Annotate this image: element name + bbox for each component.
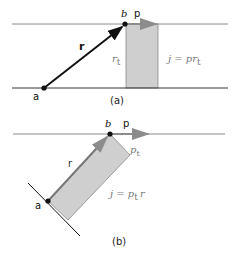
diagram-canvas: a b p r rt j = prt (a) a b p r pt j = pt… xyxy=(0,0,238,258)
label-rt: rt xyxy=(112,53,121,67)
caption-a: (a) xyxy=(110,95,124,106)
label-point-b: b xyxy=(121,8,127,19)
label-vector-p: p xyxy=(134,8,140,19)
caption-b: (b) xyxy=(112,236,126,247)
label-vector-r-b: r xyxy=(68,158,73,169)
panel-a: a b p r rt j = prt (a) xyxy=(12,8,228,106)
point-a-dot-b xyxy=(45,198,50,203)
equation-a: j = prt xyxy=(166,53,201,67)
point-a-dot xyxy=(41,85,46,90)
label-point-a-b: a xyxy=(35,200,41,211)
point-b-dot xyxy=(122,21,127,26)
vector-r-arrow-a xyxy=(44,27,122,88)
point-b-dot-b xyxy=(107,131,112,136)
label-vector-p-b: p xyxy=(123,118,129,129)
panel-b: a b p r pt j = ptr (b) xyxy=(13,118,225,247)
label-vector-r: r xyxy=(79,40,85,53)
label-point-b-b: b xyxy=(105,118,111,129)
label-pt: pt xyxy=(130,144,140,158)
shaded-rect-a xyxy=(126,24,158,88)
label-point-a: a xyxy=(33,91,39,102)
equation-b: j = ptr xyxy=(108,188,146,202)
shaded-rect-b xyxy=(48,134,130,220)
